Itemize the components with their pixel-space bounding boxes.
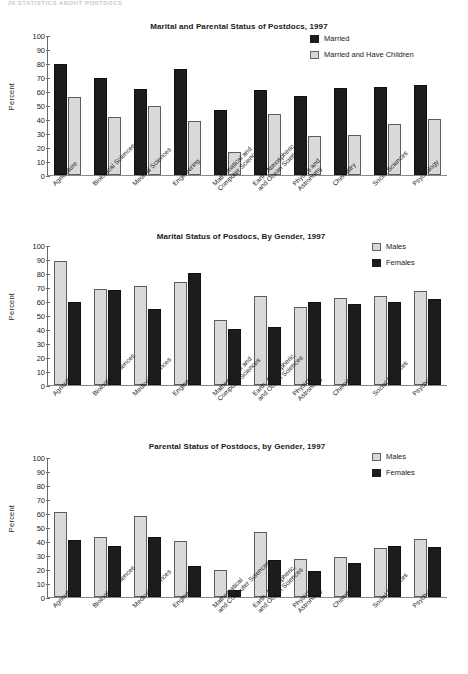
bar — [54, 64, 67, 175]
x-axis-label: Agriculture — [47, 390, 87, 450]
chart-marital-status-by-gender: Marital Status of Posdocs, By Gender, 19… — [0, 232, 468, 432]
chart-parental-status-by-gender: Parental Status of Postdocs, by Gender, … — [0, 442, 468, 674]
y-axis-tick-label: 60 — [37, 298, 45, 307]
x-axis-label: Psychology — [407, 390, 447, 450]
y-axis-tick — [46, 598, 50, 599]
x-axis-label: Engineering — [167, 390, 207, 450]
x-axis-label: Psychology — [407, 602, 447, 662]
y-axis-tick-label: 80 — [37, 482, 45, 491]
y-axis-tick-label: 50 — [37, 102, 45, 111]
chart-marital-and-parental-status: Marital and Parental Status of Postdocs,… — [0, 22, 468, 222]
x-axis-label: Mathematical andComputer Sciences — [207, 180, 247, 240]
x-axis-label: Earth, Atmospheric,and Ocean Sciences — [247, 602, 287, 662]
y-axis-tick-label: 20 — [37, 144, 45, 153]
x-axis-label: Chemistry — [327, 390, 367, 450]
y-axis-tick-label: 10 — [37, 580, 45, 589]
x-axis-label: Physics andAstronomy — [287, 390, 327, 450]
y-axis-tick-label: 100 — [32, 32, 45, 41]
y-axis-tick-label: 90 — [37, 256, 45, 265]
y-axis-tick-label: 70 — [37, 284, 45, 293]
y-axis-tick-label: 0 — [41, 594, 45, 603]
bar — [214, 110, 227, 175]
bar — [414, 539, 427, 597]
y-axis-tick-label: 20 — [37, 566, 45, 575]
x-axis-labels: AgricultureBiological SciencesMedical Sc… — [47, 390, 447, 450]
bar-group — [327, 36, 367, 175]
y-axis-tick-label: 50 — [37, 312, 45, 321]
bar — [174, 282, 187, 385]
y-axis-tick-label: 10 — [37, 368, 45, 377]
bar — [334, 88, 347, 175]
y-axis-tick-label: 50 — [37, 524, 45, 533]
x-axis-label: Physics andAstronomy — [287, 602, 327, 662]
bar-group — [407, 458, 447, 597]
bar-group — [167, 458, 207, 597]
x-axis-labels: AgricultureBiological SciencesMedical Sc… — [47, 180, 447, 240]
y-axis-tick-label: 30 — [37, 552, 45, 561]
y-axis-tick-label: 0 — [41, 172, 45, 181]
y-axis-tick-label: 100 — [32, 454, 45, 463]
x-axis-label: Agriculture — [47, 602, 87, 662]
y-axis-tick-label: 100 — [32, 242, 45, 251]
x-axis-labels: AgricultureBiological SciencesMedical Sc… — [47, 602, 447, 662]
x-axis-label: Agriculture — [47, 180, 87, 240]
x-axis-label: Social Sciences — [367, 180, 407, 240]
y-axis-tick-label: 70 — [37, 74, 45, 83]
bar — [214, 320, 227, 385]
bar — [134, 516, 147, 597]
x-axis-label: Medical Sciences — [127, 602, 167, 662]
bar — [54, 512, 67, 597]
y-axis-tick-label: 0 — [41, 382, 45, 391]
bar — [174, 69, 187, 175]
y-axis-tick-label: 30 — [37, 340, 45, 349]
y-axis-label: Percent — [7, 293, 16, 320]
bar — [294, 96, 307, 175]
bar-group — [407, 36, 447, 175]
bar-group — [47, 458, 87, 597]
x-axis-label: Psychology — [407, 180, 447, 240]
bar — [294, 307, 307, 385]
y-axis-tick-label: 70 — [37, 496, 45, 505]
y-axis-tick-label: 60 — [37, 88, 45, 97]
bar — [374, 296, 387, 385]
bar-group — [167, 36, 207, 175]
chart-title: Marital Status of Posdocs, By Gender, 19… — [0, 232, 468, 241]
y-axis-label: Percent — [7, 83, 16, 110]
y-axis-tick-label: 30 — [37, 130, 45, 139]
bar — [134, 89, 147, 175]
y-axis-tick-label: 40 — [37, 326, 45, 335]
bar-group — [47, 246, 87, 385]
x-axis-label: Chemistry — [327, 602, 367, 662]
x-axis-label: Mathematicaland Computer Sciences — [207, 602, 247, 662]
bar-group — [327, 246, 367, 385]
x-axis-label: Engineering — [167, 180, 207, 240]
bar — [254, 296, 267, 385]
y-axis-tick-label: 90 — [37, 46, 45, 55]
bar-group — [167, 246, 207, 385]
y-axis-tick-label: 40 — [37, 538, 45, 547]
bar — [414, 85, 427, 175]
bar-group — [47, 36, 87, 175]
bar — [334, 298, 347, 385]
bar-group — [407, 246, 447, 385]
bar — [134, 286, 147, 385]
bar — [94, 78, 107, 175]
x-axis-label: Medical Sciences — [127, 390, 167, 450]
y-axis-label: Percent — [7, 505, 16, 532]
y-axis-tick-label: 20 — [37, 354, 45, 363]
x-axis-label: Engineering — [167, 602, 207, 662]
y-axis-tick — [46, 176, 50, 177]
y-axis-tick-label: 80 — [37, 60, 45, 69]
y-axis-tick-label: 90 — [37, 468, 45, 477]
chart-title: Marital and Parental Status of Postdocs,… — [0, 22, 468, 31]
y-axis-tick-label: 10 — [37, 158, 45, 167]
y-axis-tick — [46, 386, 50, 387]
x-axis-label: Social Sciences — [367, 602, 407, 662]
y-axis-tick-label: 60 — [37, 510, 45, 519]
x-axis-label: Biological Sciences — [87, 602, 127, 662]
x-axis-label: Mathematical andComputer Sciences — [207, 390, 247, 450]
bar — [54, 261, 67, 385]
bar-group — [327, 458, 367, 597]
x-axis-label: Earth, Atmospheric,and Ocean Sciences — [247, 180, 287, 240]
x-axis-label: Chemistry — [327, 180, 367, 240]
